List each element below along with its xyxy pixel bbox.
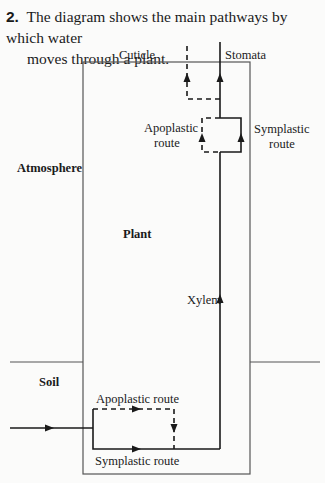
- label-upper-symplastic-1: Symplastic: [254, 122, 310, 136]
- upper-symplastic-arrow-icon: [238, 133, 245, 142]
- upper-apoplastic-route: [202, 118, 220, 152]
- label-upper-apoplastic-2: route: [154, 136, 180, 150]
- label-atmosphere: Atmosphere: [17, 161, 82, 175]
- label-stomata: Stomata: [225, 48, 266, 62]
- upper-symplastic-route: [220, 118, 241, 152]
- label-plant: Plant: [123, 227, 152, 241]
- water-pathway-diagram: Cuticle Stomata Atmosphere Plant Xylem S…: [0, 0, 325, 483]
- lower-symplastic-route: [93, 409, 220, 449]
- label-lower-symplastic: Symplastic route: [95, 454, 180, 468]
- label-cuticle: Cuticle: [119, 48, 156, 62]
- soil-input-arrow-icon: [45, 425, 54, 432]
- label-soil: Soil: [39, 375, 60, 389]
- lower-apoplastic-route: [93, 409, 174, 449]
- lower-apoplastic-arrow-right-icon: [132, 406, 141, 413]
- label-lower-apoplastic: Apoplastic route: [96, 392, 179, 406]
- label-xylem: Xylem: [187, 293, 221, 307]
- stomata-arrow-icon: [217, 73, 224, 82]
- cuticle-arrow-icon: [184, 73, 191, 82]
- lower-symplastic-arrow-icon: [132, 446, 141, 453]
- upper-apoplastic-arrow-icon: [199, 133, 206, 142]
- lower-apoplastic-arrow-down-icon: [171, 424, 178, 433]
- label-upper-apoplastic-1: Apoplastic: [144, 121, 199, 135]
- cuticle-pathway: [187, 42, 220, 99]
- label-upper-symplastic-2: route: [269, 137, 295, 151]
